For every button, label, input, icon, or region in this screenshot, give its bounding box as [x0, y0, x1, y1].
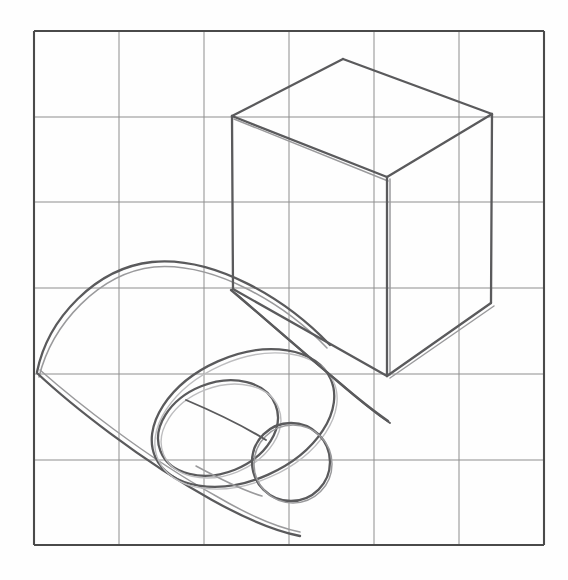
cube-edge-left-vertical: [232, 116, 233, 289]
paper-background: [0, 0, 568, 580]
sketch-page: [0, 0, 568, 580]
sketch-canvas: [0, 0, 568, 580]
cube-edge-right-vertical: [491, 114, 492, 303]
